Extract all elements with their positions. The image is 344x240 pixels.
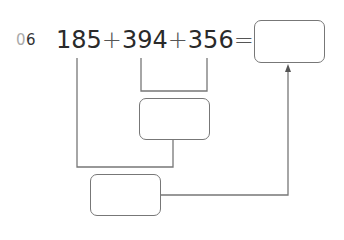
total-sum-box[interactable] xyxy=(90,174,161,216)
answer-box[interactable] xyxy=(254,20,325,63)
arrow-up-icon xyxy=(285,64,291,72)
intermediate-sum-box[interactable] xyxy=(139,98,210,140)
bracket-394-356 xyxy=(141,58,207,91)
